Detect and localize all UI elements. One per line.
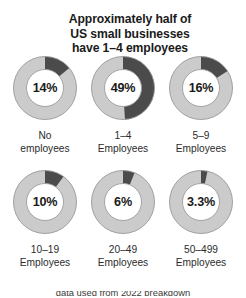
source-note-text: data used from 2022 breakdown (0, 291, 246, 298)
caption-line-2: Employees (176, 257, 226, 270)
donut-svg (90, 55, 156, 121)
donut-svg (168, 55, 234, 121)
donut-cell-50-499-employees: 3.3% 50–499 Employees (162, 169, 240, 269)
caption-line-2: Employees (98, 257, 148, 270)
donut-cell-10-19-employees: 10% 10–19 Employees (6, 169, 84, 269)
donut-chart: 49% (90, 55, 156, 121)
donut-chart-grid: 14% No employees 49% 1–4 Employees (0, 55, 246, 269)
donut-cell-20-49-employees: 6% 20–49 Employees (84, 169, 162, 269)
caption-line-2: employees (20, 143, 69, 156)
infographic-root: Approximately half of US small businesse… (0, 0, 246, 298)
caption-line-1: 10–19 (20, 244, 70, 257)
donut-caption: 1–4 Employees (98, 130, 148, 155)
caption-line-2: Employees (98, 143, 148, 156)
donut-cell-5-9-employees: 16% 5–9 Employees (162, 55, 240, 155)
donut-cell-no-employees: 14% No employees (6, 55, 84, 155)
donut-caption: 50–499 Employees (176, 244, 226, 269)
donut-svg (12, 55, 78, 121)
title-line-2: US small businesses (14, 27, 246, 42)
caption-line-2: Employees (176, 143, 226, 156)
title-line-1: Approximately half of (14, 12, 246, 27)
caption-line-1: 1–4 (98, 130, 148, 143)
donut-caption: 10–19 Employees (20, 244, 70, 269)
donut-caption: 20–49 Employees (98, 244, 148, 269)
donut-row-1: 14% No employees 49% 1–4 Employees (0, 55, 246, 155)
donut-chart: 6% (90, 169, 156, 235)
donut-chart: 10% (12, 169, 78, 235)
donut-caption: 5–9 Employees (176, 130, 226, 155)
caption-line-1: No (20, 130, 69, 143)
donut-svg (90, 169, 156, 235)
donut-chart: 16% (168, 55, 234, 121)
donut-svg (12, 169, 78, 235)
title-line-3: have 1–4 employees (14, 41, 246, 56)
caption-line-1: 20–49 (98, 244, 148, 257)
source-note-cropped: data used from 2022 breakdown (0, 291, 246, 298)
donut-cell-1-4-employees: 49% 1–4 Employees (84, 55, 162, 155)
donut-chart: 14% (12, 55, 78, 121)
donut-svg (168, 169, 234, 235)
page-title: Approximately half of US small businesse… (0, 12, 246, 56)
donut-row-2: 10% 10–19 Employees 6% 20–49 Employees (0, 169, 246, 269)
donut-chart: 3.3% (168, 169, 234, 235)
caption-line-2: Employees (20, 257, 70, 270)
caption-line-1: 5–9 (176, 130, 226, 143)
caption-line-1: 50–499 (176, 244, 226, 257)
donut-caption: No employees (20, 130, 69, 155)
